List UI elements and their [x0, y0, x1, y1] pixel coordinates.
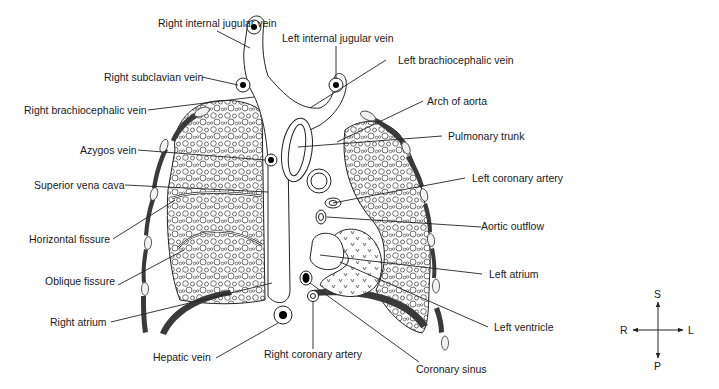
- compass-right: R: [620, 324, 628, 336]
- compass-posterior: P: [654, 360, 661, 372]
- right-subclavian-vein-section: [236, 78, 250, 92]
- label-left-brachiocephalic-vein: Left brachiocephalic vein: [398, 54, 514, 66]
- label-right-atrium: Right atrium: [50, 316, 107, 328]
- left-atrium: [310, 233, 344, 269]
- hepatic-vein-section: [274, 306, 292, 324]
- label-pulmonary-trunk: Pulmonary trunk: [448, 130, 525, 142]
- label-hepatic-vein: Hepatic vein: [153, 351, 211, 363]
- azygos-vein-section: [265, 154, 277, 166]
- label-right-brachiocephalic-vein: Right brachiocephalic vein: [24, 104, 147, 116]
- left-internal-jugular-vein-section: [329, 78, 343, 92]
- label-oblique-fissure: Oblique fissure: [45, 275, 115, 287]
- label-left-internal-jugular-vein: Left internal jugular vein: [282, 32, 394, 44]
- label-coronary-sinus: Coronary sinus: [416, 363, 487, 375]
- right-coronary-artery: [308, 291, 319, 302]
- label-right-subclavian-vein: Right subclavian vein: [104, 71, 203, 83]
- label-right-internal-jugular-vein: Right internal jugular vein: [158, 17, 277, 29]
- label-left-coronary-artery: Left coronary artery: [472, 172, 564, 184]
- label-superior-vena-cava: Superior vena cava: [34, 179, 125, 191]
- label-aortic-outflow: Aortic outflow: [481, 220, 544, 232]
- label-right-coronary-artery: Right coronary artery: [264, 348, 363, 360]
- compass-left: L: [688, 324, 694, 336]
- label-azygos-vein: Azygos vein: [80, 144, 137, 156]
- orientation-compass: S P R L: [620, 288, 694, 372]
- compass-superior: S: [654, 288, 661, 300]
- thorax-diagram: Right internal jugular vein Left interna…: [0, 0, 719, 389]
- label-arch-of-aorta: Arch of aorta: [427, 95, 487, 107]
- label-horizontal-fissure: Horizontal fissure: [29, 233, 110, 245]
- labels: Right internal jugular vein Left interna…: [24, 17, 564, 375]
- label-left-atrium: Left atrium: [489, 268, 539, 280]
- pulmonary-trunk: [307, 169, 331, 193]
- aortic-outflow: [316, 210, 326, 224]
- label-left-ventricle: Left ventricle: [494, 321, 554, 333]
